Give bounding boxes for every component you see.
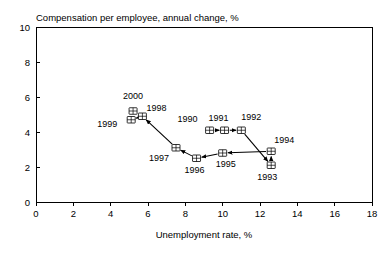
y-tick-label: 10 <box>19 22 30 33</box>
trajectory-arrow <box>181 150 192 156</box>
x-axis-label: Unemployment rate, % <box>156 229 253 240</box>
data-point-marker <box>193 155 201 162</box>
data-point-marker <box>221 127 229 134</box>
data-point-label: 1998 <box>146 103 166 113</box>
data-point-marker <box>237 127 245 134</box>
data-point-marker <box>267 162 275 169</box>
data-point-marker <box>172 145 180 152</box>
y-tick-label: 8 <box>25 57 30 68</box>
trajectory-arrow <box>202 154 218 157</box>
data-point-marker <box>129 108 137 115</box>
data-point-marker <box>219 150 227 157</box>
data-point-label: 1999 <box>97 119 117 129</box>
data-point-label: 1991 <box>209 113 229 123</box>
data-point-marker <box>138 113 146 120</box>
x-tick-label: 2 <box>71 208 76 219</box>
chart-title: Compensation per employee, annual change… <box>36 12 239 23</box>
plot-frame <box>36 27 372 202</box>
x-tick-label: 10 <box>217 208 228 219</box>
x-tick-label: 0 <box>33 208 38 219</box>
data-point-label: 1996 <box>185 165 205 175</box>
y-tick-label: 6 <box>25 92 30 103</box>
trajectory-arrow <box>146 120 172 144</box>
x-axis-ticks: 024681012141618 <box>33 202 377 219</box>
scatter-plot-svg: 024681012141618 0246810 1990199119921993… <box>0 0 390 254</box>
y-tick-label: 2 <box>25 162 30 173</box>
y-tick-label: 4 <box>25 127 30 138</box>
x-tick-label: 6 <box>145 208 150 219</box>
data-point-marker <box>267 148 275 155</box>
x-tick-label: 4 <box>108 208 113 219</box>
data-point-label: 1993 <box>257 172 277 182</box>
x-tick-label: 16 <box>329 208 340 219</box>
data-point-marker <box>206 127 214 134</box>
x-tick-label: 12 <box>255 208 266 219</box>
data-point-marker <box>127 117 135 124</box>
data-point-labels: 1990199119921993199419951996199719981999… <box>97 91 294 182</box>
y-axis-ticks: 0246810 <box>19 22 40 208</box>
chart-figure: 024681012141618 0246810 1990199119921993… <box>0 0 390 254</box>
data-point-label: 1994 <box>274 135 294 145</box>
data-point-label: 1990 <box>178 114 198 124</box>
x-tick-label: 8 <box>183 208 188 219</box>
x-tick-label: 14 <box>292 208 303 219</box>
data-point-label: 1997 <box>149 153 169 163</box>
y-tick-label: 0 <box>25 197 30 208</box>
trajectory-arrow <box>245 134 268 161</box>
data-point-label: 1992 <box>241 112 261 122</box>
data-point-label: 1995 <box>216 159 236 169</box>
data-point-label: 2000 <box>123 91 143 101</box>
x-tick-label: 18 <box>367 208 378 219</box>
